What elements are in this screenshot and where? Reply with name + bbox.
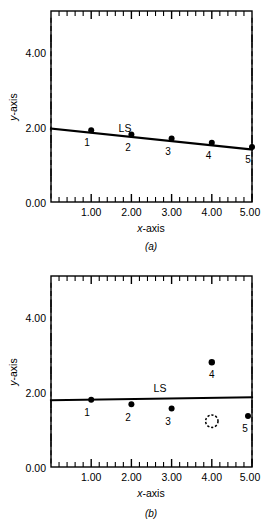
ls-regression-line-b bbox=[51, 397, 252, 400]
data-point-labels-b: 1 2 3 4 5 bbox=[84, 369, 248, 434]
y-tick-label-a-0: 0.00 bbox=[26, 197, 47, 209]
ls-regression-line-a bbox=[51, 129, 252, 150]
panel-caption-b: (b) bbox=[145, 508, 157, 519]
chart-panel-b: y-axis 4.00 2.00 0.00 bbox=[0, 255, 265, 530]
data-point-label-a-3: 3 bbox=[165, 146, 171, 157]
data-point-b-3 bbox=[169, 405, 175, 411]
original-point-4-marker bbox=[206, 415, 218, 427]
x-tick-label-b-1: 1.00 bbox=[81, 471, 102, 483]
x-axis-title-a: x-axis bbox=[136, 222, 164, 234]
scatter-plot-a: y-axis 4.00 2.00 0.00 bbox=[0, 0, 265, 265]
y-axis-title-b-rest: -axis bbox=[7, 358, 19, 380]
x-tick-label-a-3: 3.00 bbox=[161, 206, 182, 218]
data-point-label-b-5: 5 bbox=[242, 423, 248, 434]
x-axis-title-a-rest: -axis bbox=[143, 222, 165, 234]
data-point-a-4 bbox=[209, 140, 215, 146]
x-tick-label-a-2: 2.00 bbox=[121, 206, 142, 218]
data-point-a-1 bbox=[88, 127, 94, 133]
x-tick-label-b-4: 4.00 bbox=[202, 471, 223, 483]
data-point-b-1 bbox=[88, 397, 94, 403]
y-axis-title-a-rest: -axis bbox=[7, 93, 19, 115]
ticks-a bbox=[51, 11, 252, 202]
y-tick-label-a-2: 2.00 bbox=[26, 122, 47, 134]
data-point-label-a-1: 1 bbox=[84, 137, 90, 148]
x-tick-label-b-2: 2.00 bbox=[121, 471, 142, 483]
x-tick-label-a-1: 1.00 bbox=[81, 206, 102, 218]
chart-panel-a: y-axis 4.00 2.00 0.00 bbox=[0, 0, 265, 265]
x-tick-label-a-5: 5.00 bbox=[240, 206, 261, 218]
panel-caption-a: (a) bbox=[145, 241, 157, 252]
plot-frame-a bbox=[51, 11, 252, 202]
x-axis-title-b-rest: -axis bbox=[143, 487, 165, 499]
data-point-b-4-outlier bbox=[209, 359, 215, 365]
scatter-plot-b: y-axis 4.00 2.00 0.00 bbox=[0, 255, 265, 530]
x-tick-label-b-3: 3.00 bbox=[161, 471, 182, 483]
data-point-a-5 bbox=[249, 144, 255, 150]
y-tick-label-b-2: 2.00 bbox=[26, 387, 47, 399]
y-axis-title-a: y-axis bbox=[7, 93, 19, 121]
data-point-label-a-4: 4 bbox=[206, 150, 212, 161]
data-point-a-2 bbox=[128, 131, 134, 137]
y-tick-label-b-0: 0.00 bbox=[26, 462, 47, 474]
x-tick-label-a-4: 4.00 bbox=[202, 206, 223, 218]
y-tick-label-b-4: 4.00 bbox=[26, 312, 47, 324]
data-points-b bbox=[88, 359, 251, 419]
data-point-label-a-5: 5 bbox=[245, 154, 251, 165]
data-point-b-5 bbox=[245, 413, 251, 419]
data-point-label-a-2: 2 bbox=[125, 142, 131, 153]
data-point-label-b-3: 3 bbox=[165, 416, 171, 427]
y-tick-label-a-4: 4.00 bbox=[26, 47, 47, 59]
ls-line-label-b: LS bbox=[154, 382, 167, 394]
x-axis-title-b: x-axis bbox=[136, 487, 164, 499]
data-point-a-3 bbox=[169, 136, 175, 142]
ticks-b bbox=[51, 276, 252, 467]
plot-frame-b bbox=[51, 276, 252, 467]
data-point-b-2 bbox=[128, 401, 134, 407]
regression-outlier-figure: y-axis 4.00 2.00 0.00 bbox=[0, 0, 265, 530]
data-point-label-b-2: 2 bbox=[125, 412, 131, 423]
data-point-label-b-1: 1 bbox=[84, 407, 90, 418]
x-tick-label-b-5: 5.00 bbox=[240, 471, 261, 483]
data-point-label-b-4: 4 bbox=[209, 369, 215, 380]
y-axis-title-b: y-axis bbox=[7, 358, 19, 386]
